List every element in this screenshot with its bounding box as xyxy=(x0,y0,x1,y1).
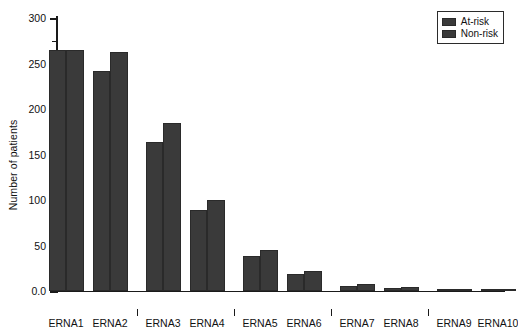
bar-erna9-at-risk xyxy=(437,289,455,291)
x-tick-label-erna2: ERNA2 xyxy=(92,317,127,329)
legend-swatch-icon xyxy=(442,18,456,26)
bar-erna7-non-risk xyxy=(357,284,375,291)
bar-erna6-non-risk xyxy=(304,271,322,291)
bar-erna10-non-risk xyxy=(498,289,516,291)
y-axis-title-label: Number of patients xyxy=(7,120,19,211)
x-axis-group-separator xyxy=(428,309,429,316)
x-axis-group-separator xyxy=(234,309,235,316)
x-tick-label-erna5: ERNA5 xyxy=(242,317,277,329)
bar-erna5-at-risk xyxy=(243,256,261,291)
x-tick-label-erna4: ERNA4 xyxy=(189,317,224,329)
y-tick-label: 50 xyxy=(34,240,46,252)
bar-erna3-non-risk xyxy=(163,123,181,291)
x-tick-label-erna1: ERNA1 xyxy=(48,317,83,329)
legend-item-non-risk[interactable]: Non-risk xyxy=(442,28,498,39)
legend: At-riskNon-risk xyxy=(437,11,504,44)
bar-erna5-non-risk xyxy=(260,250,278,291)
legend-label: At-risk xyxy=(461,16,489,27)
bar-erna8-non-risk xyxy=(401,287,419,291)
legend-item-at-risk[interactable]: At-risk xyxy=(442,16,498,27)
plot-area: 0.050100150200250300 ERNA1ERNA2ERNA3ERNA… xyxy=(56,18,504,291)
y-tick-label: 0.0 xyxy=(31,285,46,297)
bar-erna4-non-risk xyxy=(207,200,225,291)
bar-erna3-at-risk xyxy=(146,142,164,291)
y-tick-label: 250 xyxy=(28,58,46,70)
y-tick-label: 200 xyxy=(28,103,46,115)
y-tick-major xyxy=(50,18,56,20)
bar-erna4-at-risk xyxy=(190,210,208,291)
x-tick-label-erna8: ERNA8 xyxy=(383,317,418,329)
x-axis-group-separator xyxy=(137,309,138,316)
bar-erna1-non-risk xyxy=(66,50,84,291)
bar-erna10-at-risk xyxy=(481,289,499,291)
y-tick-label: 100 xyxy=(28,194,46,206)
x-tick-label-erna3: ERNA3 xyxy=(145,317,180,329)
x-tick-label-erna7: ERNA7 xyxy=(339,317,374,329)
x-axis-group-separator xyxy=(331,309,332,316)
legend-swatch-icon xyxy=(442,30,456,38)
bar-erna7-at-risk xyxy=(340,286,358,291)
x-tick-label-erna9: ERNA9 xyxy=(436,317,471,329)
bar-erna2-at-risk xyxy=(93,71,111,291)
y-axis-title: Number of patients xyxy=(4,0,22,330)
x-tick-label-erna6: ERNA6 xyxy=(286,317,321,329)
y-tick-label: 150 xyxy=(28,149,46,161)
bar-erna2-non-risk xyxy=(110,52,128,291)
bar-erna9-non-risk xyxy=(454,289,472,291)
y-tick-label: 300 xyxy=(28,12,46,24)
bar-erna6-at-risk xyxy=(287,274,305,291)
x-tick-label-erna10: ERNA10 xyxy=(478,317,518,329)
legend-label: Non-risk xyxy=(461,28,498,39)
y-tick-minor xyxy=(52,41,56,43)
bar-erna8-at-risk xyxy=(384,288,402,291)
y-tick-major xyxy=(50,291,56,293)
bar-erna1-at-risk xyxy=(49,50,67,291)
